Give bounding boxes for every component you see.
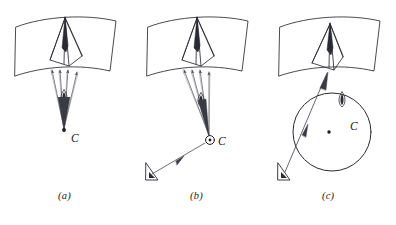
- panel-c-center-label: C: [350, 120, 358, 132]
- panel-b-group: [146, 17, 248, 180]
- panel-b-sight-line: [152, 143, 205, 174]
- panel-a-center-point: [62, 128, 66, 132]
- panel-c-cone-edge-left: [312, 24, 330, 63]
- panel-c-ray-arrow-top: [320, 72, 328, 90]
- panel-a-center-label: C: [71, 132, 79, 144]
- panel-b-center-dot: [209, 139, 212, 142]
- panel-b-center-label: C: [218, 135, 226, 147]
- panel-caption-a: (a): [58, 190, 71, 201]
- panel-c-group: [278, 17, 380, 180]
- panel-caption-c: (c): [322, 190, 334, 201]
- panel-a-group: [15, 17, 116, 132]
- panel-caption-b: (b): [190, 190, 203, 201]
- figure-root: C C C (a) (b) (c): [0, 0, 396, 225]
- panel-c-center-dot: [327, 130, 330, 133]
- panel-a-tail: [58, 97, 70, 130]
- panel-b-tail: [198, 99, 209, 137]
